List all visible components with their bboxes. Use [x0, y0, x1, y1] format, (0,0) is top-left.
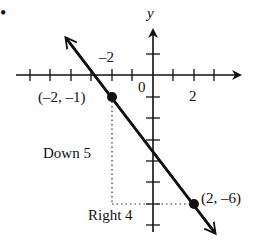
- tick-label-2: 2: [189, 89, 197, 104]
- point-label-2-neg6: (2, –6): [201, 191, 241, 206]
- annotation-right-4: Right 4: [88, 208, 133, 223]
- y-axis-label: y: [147, 6, 154, 21]
- annotation-down-5: Down 5: [43, 146, 91, 161]
- graph-figure: • y –2 0 2 (–2, –1) (2, –6) Down 5 Right…: [0, 0, 253, 242]
- tick-label-zero: 0: [138, 80, 146, 95]
- bullet: •: [0, 4, 6, 22]
- tick-label-neg2: –2: [99, 50, 114, 65]
- point-neg2-neg1: [107, 92, 117, 102]
- point-label-neg2-neg1: (–2, –1): [38, 90, 86, 105]
- point-2-neg6: [189, 199, 199, 209]
